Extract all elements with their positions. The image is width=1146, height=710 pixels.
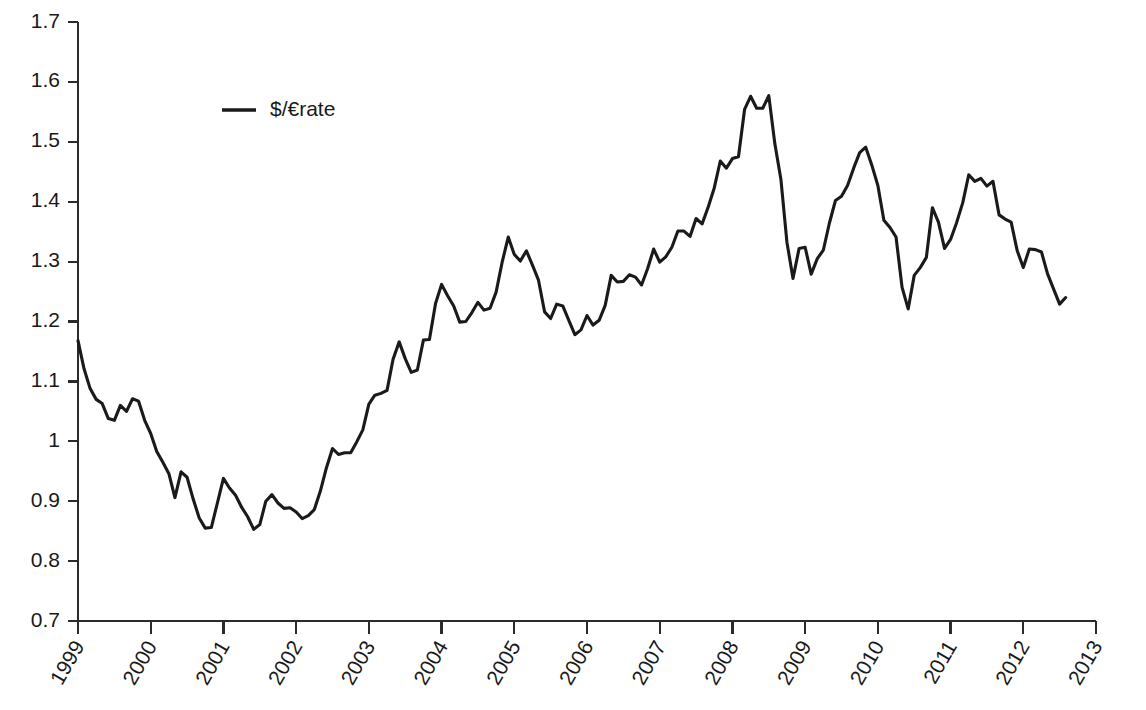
legend-label: $/€rate <box>270 97 335 120</box>
y-tick-label: 1.7 <box>31 9 60 32</box>
chart-container: 1.71.61.51.41.31.21.110.90.80.7 19992000… <box>0 0 1146 710</box>
x-tick-label: 2005 <box>481 637 524 689</box>
y-tick-label: 1.1 <box>31 368 60 391</box>
x-tick-label: 2004 <box>409 636 452 688</box>
x-tick-label: 2013 <box>1063 637 1106 689</box>
y-axis-ticks: 1.71.61.51.41.31.21.110.90.80.7 <box>31 9 78 631</box>
x-tick-label: 2009 <box>772 637 815 689</box>
x-tick-label: 2003 <box>336 637 379 689</box>
series-group <box>78 96 1066 530</box>
y-tick-label: 0.8 <box>31 548 60 571</box>
x-tick-label: 2000 <box>118 637 161 689</box>
y-tick-label: 0.7 <box>31 608 60 631</box>
series-line-0 <box>78 96 1066 530</box>
y-tick-label: 1.5 <box>31 128 60 151</box>
line-chart: 1.71.61.51.41.31.21.110.90.80.7 19992000… <box>0 0 1146 710</box>
y-tick-label: 1.2 <box>31 308 60 331</box>
y-tick-label: 1 <box>48 428 60 451</box>
x-tick-label: 2007 <box>627 637 670 689</box>
x-tick-label: 2006 <box>554 637 597 689</box>
x-tick-label: 2008 <box>700 637 743 689</box>
y-tick-label: 1.3 <box>31 248 60 271</box>
y-tick-label: 0.9 <box>31 488 60 511</box>
x-tick-label: 2001 <box>191 637 234 689</box>
legend: $/€rate <box>222 97 335 120</box>
y-tick-label: 1.4 <box>31 188 61 211</box>
x-tick-label: 1999 <box>45 637 88 689</box>
x-tick-label: 2010 <box>845 637 888 689</box>
x-tick-label: 2002 <box>263 637 306 689</box>
x-tick-label: 2012 <box>990 637 1033 689</box>
axis-group <box>78 22 1096 621</box>
y-tick-label: 1.6 <box>31 68 60 91</box>
x-axis-ticks: 1999200020012002200320042005200620072008… <box>45 621 1106 688</box>
x-tick-label: 2011 <box>919 637 962 688</box>
